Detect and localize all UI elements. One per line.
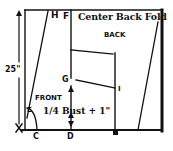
point-label-c: C — [33, 133, 39, 141]
pattern-drawing — [0, 0, 173, 151]
point-a-mark — [16, 124, 22, 132]
point-label-d: D — [67, 133, 74, 141]
point-label-i: I — [118, 86, 121, 93]
point-d-arrow-down — [68, 121, 74, 127]
back-shoulder-line — [71, 50, 113, 54]
point-b-mark — [113, 130, 118, 135]
center-back-fold-label: Center Back Fold — [78, 12, 167, 22]
point-label-h: H — [51, 11, 59, 20]
length-measure-label: 25" — [5, 66, 20, 74]
back-side-line — [138, 22, 158, 130]
front-piece-label: FRONT — [35, 95, 62, 102]
length-arrow-head — [16, 10, 22, 16]
point-label-g: G — [62, 76, 69, 84]
point-label-e: E — [27, 107, 32, 114]
point-label-f: F — [63, 12, 69, 21]
back-waist-line — [76, 80, 115, 88]
back-piece-label: BACK — [104, 32, 125, 39]
bust-measure-label: 1/4 Bust + 1" — [43, 107, 110, 116]
point-g-arrow — [68, 86, 74, 92]
